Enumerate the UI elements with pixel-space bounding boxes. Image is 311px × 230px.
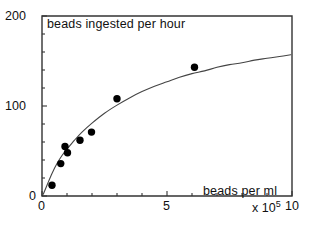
data-point xyxy=(191,64,198,71)
x-axis-tick-label-0: 0 xyxy=(38,200,45,213)
x-axis-title: beads per ml xyxy=(203,185,277,198)
fitted-curve xyxy=(43,55,291,195)
x-axis-tick-label-10: 10 xyxy=(285,200,299,213)
x-axis-tick-label-5: 5 xyxy=(163,200,170,213)
data-point xyxy=(61,143,68,150)
data-point xyxy=(57,160,64,167)
chart-title: beads ingested per hour xyxy=(47,18,185,31)
data-point xyxy=(88,128,95,135)
data-point xyxy=(76,137,83,144)
data-point xyxy=(48,182,55,189)
x-axis-exponent-base: x 10 xyxy=(252,201,276,215)
data-point-group xyxy=(48,64,198,189)
figure-container: beads ingested per hour beads per ml 200… xyxy=(0,0,311,230)
axis-frame xyxy=(42,16,292,196)
x-axis-exponent-power: 5 xyxy=(276,199,281,209)
y-axis-tick-label-100: 100 xyxy=(5,100,26,113)
y-axis-tick-label-200: 200 xyxy=(5,10,26,23)
data-point xyxy=(113,95,120,102)
data-point xyxy=(64,149,71,156)
axis-tick-marks xyxy=(42,16,292,196)
x-axis-exponent-label: x 105 xyxy=(252,200,281,215)
y-axis-tick-label-0: 0 xyxy=(29,190,36,203)
